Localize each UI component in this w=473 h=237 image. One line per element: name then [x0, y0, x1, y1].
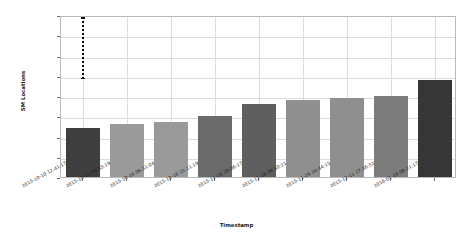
error-bar-cap-top — [81, 17, 85, 19]
error-bar-cap-bottom — [81, 78, 85, 80]
bar-5[interactable] — [286, 100, 320, 177]
gridline-35 — [61, 37, 455, 38]
bar-4[interactable] — [242, 104, 276, 177]
gridline-25 — [61, 78, 455, 79]
bar-7[interactable] — [374, 96, 408, 177]
x-axis-title: Timestamp — [0, 222, 473, 228]
bar-chart: SM Locations 0 5 10 15 20 25 30 35 40 — [0, 0, 473, 237]
gridline-30 — [61, 58, 455, 59]
x-tick-mark-8 — [434, 178, 435, 181]
y-tick-mark-0 — [57, 178, 60, 179]
bar-6[interactable] — [330, 98, 364, 177]
error-bar — [82, 17, 84, 78]
plot-area — [60, 16, 456, 178]
bar-8[interactable] — [418, 80, 452, 177]
